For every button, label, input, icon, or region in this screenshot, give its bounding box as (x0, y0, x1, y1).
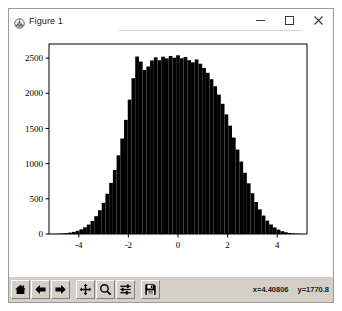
title-bar: Figure 1 (9, 9, 333, 32)
figure-canvas[interactable]: -4-202405001000150020002500 (9, 32, 333, 276)
svg-text:-4: -4 (75, 240, 83, 250)
move-cross-arrows-icon (79, 283, 92, 296)
close-button[interactable] (304, 9, 333, 32)
pan-button[interactable] (76, 280, 95, 299)
zoom-button[interactable] (96, 280, 115, 299)
sliders-icon (119, 283, 132, 296)
coordinate-x: x=4.40806 (253, 285, 289, 294)
matplotlib-logo-icon (14, 15, 25, 26)
svg-text:2: 2 (225, 240, 230, 250)
floppy-disk-save-icon (144, 283, 157, 296)
coordinate-readout: x=4.40806 y=1770.8 (253, 277, 329, 302)
home-icon (14, 283, 27, 296)
title-bar-left: Figure 1 (9, 15, 63, 26)
svg-text:1500: 1500 (25, 124, 44, 134)
coordinate-y: y=1770.8 (298, 285, 330, 294)
configure-subplots-button[interactable] (116, 280, 135, 299)
arrow-right-icon (54, 283, 67, 296)
svg-text:-2: -2 (125, 240, 133, 250)
home-button[interactable] (11, 280, 30, 299)
save-button[interactable] (141, 280, 160, 299)
window-controls (246, 9, 333, 32)
svg-text:4: 4 (275, 240, 280, 250)
figure-window: Figure 1 (8, 8, 334, 303)
svg-text:2500: 2500 (25, 53, 44, 63)
forward-button[interactable] (51, 280, 70, 299)
arrow-left-icon (34, 283, 47, 296)
magnifier-icon (99, 283, 112, 296)
svg-text:0: 0 (39, 229, 44, 239)
svg-text:500: 500 (30, 194, 44, 204)
minimize-button[interactable] (246, 9, 275, 32)
svg-text:1000: 1000 (25, 159, 44, 169)
svg-text:2000: 2000 (25, 88, 44, 98)
navigation-toolbar: x=4.40806 y=1770.8 (9, 276, 333, 302)
maximize-button[interactable] (275, 9, 304, 32)
svg-text:0: 0 (176, 240, 181, 250)
window-title: Figure 1 (29, 16, 63, 26)
histogram-plot: -4-202405001000150020002500 (9, 32, 333, 276)
back-button[interactable] (31, 280, 50, 299)
